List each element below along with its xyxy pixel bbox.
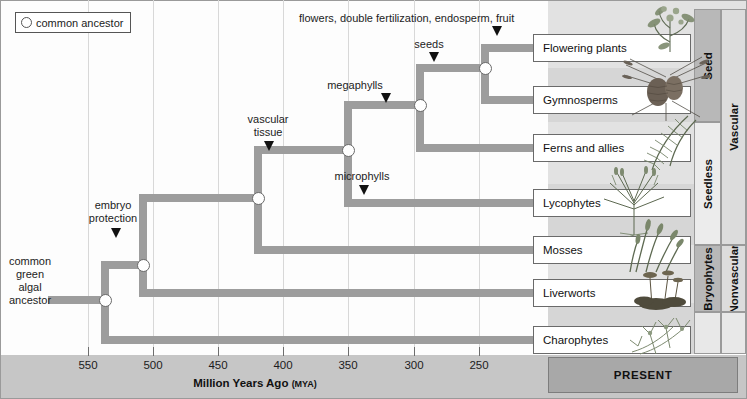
root-label-line-2: green [4, 268, 56, 281]
node-seed-plants[interactable] [414, 99, 427, 112]
axis-tick-label: 450 [198, 359, 238, 371]
taxon-charophytes[interactable]: Charophytes [533, 326, 691, 354]
legend-label: common ancestor [36, 17, 123, 29]
trait-label-line-1: flowers, double fertilization, endosperm… [299, 12, 519, 25]
axis-tick-500 [153, 347, 154, 356]
circle-node-icon [21, 17, 32, 28]
axis-tick-400 [283, 347, 284, 356]
branch-root-stem [48, 296, 106, 304]
group-band-seedless: Seedless [694, 122, 721, 245]
trait-seeds: seeds [400, 38, 458, 51]
group-band-nonvascular: Nonvascular [721, 245, 746, 312]
axis-tick-350 [348, 347, 349, 356]
present-label-box: PRESENT [548, 357, 738, 393]
trait-arrow-megaphylls [381, 93, 391, 103]
present-label: PRESENT [614, 369, 673, 381]
group-band-label: Bryophytes [702, 247, 714, 310]
branch-flowering-plants [481, 44, 541, 52]
trait-embryo-protection: embryo protection [68, 199, 158, 225]
root-label-line-1: common [4, 255, 56, 268]
trait-arrow-seeds [429, 52, 439, 62]
trait-label-line-2: protection [68, 212, 158, 225]
gridline-250 [479, 0, 480, 355]
branch-mosses [254, 246, 541, 254]
group-band-label: Seed [702, 52, 714, 80]
branch-charophytes [101, 336, 541, 344]
trait-megaphylls: megaphylls [311, 79, 399, 92]
trait-label-line-1: embryo [68, 199, 158, 212]
group-band-label: Seedless [702, 159, 714, 209]
node-angiosperm-split[interactable] [479, 62, 492, 75]
axis-tick-label: 550 [68, 359, 108, 371]
trait-microphylls: microphylls [318, 170, 406, 183]
axis-tick-300 [414, 347, 415, 356]
trait-label-line-1: vascular [228, 113, 308, 126]
gridline-300 [414, 0, 415, 355]
trait-arrow-flowers-fruit [492, 26, 502, 36]
gridline-500 [153, 0, 154, 355]
root-label-line-3: algal [4, 281, 56, 294]
axis-tick-label: 300 [394, 359, 434, 371]
axis-tick-450 [218, 347, 219, 356]
group-band-unlabeled-charophyte [694, 312, 721, 354]
branch-ferns [416, 144, 541, 152]
trait-label-line-1: microphylls [318, 170, 406, 183]
taxon-gymnosperms[interactable]: Gymnosperms [533, 86, 691, 114]
group-band-seed: Seed [694, 9, 721, 122]
trait-arrow-microphylls [359, 185, 369, 195]
node-common-green-algal-ancestor[interactable] [99, 294, 112, 307]
gridline-450 [218, 0, 219, 355]
axis-tick-label: 350 [328, 359, 368, 371]
node-euphyllophytes[interactable] [342, 144, 355, 157]
axis-tick-550 [88, 347, 89, 356]
group-band-vascular: Vascular [721, 9, 746, 245]
taxon-label: Mosses [543, 244, 583, 256]
group-band-unlabeled-outer [721, 312, 746, 354]
trait-arrow-embryo-protection [111, 228, 121, 238]
axis-tick-label: 400 [263, 359, 303, 371]
phylogenetic-tree-figure: common green algal ancestor embryo prote… [0, 0, 747, 399]
taxon-label: Charophytes [543, 334, 608, 346]
taxon-label: Gymnosperms [543, 94, 618, 106]
gridline-400 [283, 0, 284, 355]
axis-tick-label: 500 [133, 359, 173, 371]
taxon-flowering-plants[interactable]: Flowering plants [533, 34, 691, 62]
taxon-label: Flowering plants [543, 42, 627, 54]
axis-title: Million Years Ago (MYA) [0, 377, 510, 389]
taxon-lycophytes[interactable]: Lycophytes [533, 189, 691, 217]
branch-liverworts [139, 289, 541, 297]
taxon-label: Liverworts [543, 287, 595, 299]
root-label-line-4: ancestor [4, 294, 56, 307]
group-band-label: Vascular [728, 103, 740, 150]
trait-label-line-2: tissue [228, 126, 308, 139]
taxon-label: Lycophytes [543, 197, 601, 209]
trait-vascular-tissue: vascular tissue [228, 113, 308, 139]
taxon-label: Ferns and allies [543, 142, 624, 154]
axis-title-unit: (MYA) [292, 379, 317, 389]
taxon-liverworts[interactable]: Liverworts [533, 279, 691, 307]
group-band-bryophytes: Bryophytes [694, 245, 721, 312]
trait-flowers-fruit: flowers, double fertilization, endosperm… [299, 12, 519, 25]
branch-gymnosperms [481, 96, 541, 104]
node-embryophytes[interactable] [137, 259, 150, 272]
trait-label-line-1: seeds [400, 38, 458, 51]
legend-common-ancestor: common ancestor [15, 12, 131, 33]
trait-arrow-vascular-tissue [264, 141, 274, 151]
axis-tick-250 [479, 347, 480, 356]
axis-title-text: Million Years Ago [193, 377, 288, 389]
trait-label-line-1: megaphylls [311, 79, 399, 92]
taxon-ferns-and-allies[interactable]: Ferns and allies [533, 134, 691, 162]
root-label: common green algal ancestor [4, 255, 56, 307]
node-vascular-plants[interactable] [252, 192, 265, 205]
taxon-mosses[interactable]: Mosses [533, 236, 691, 264]
branch-lycophytes [344, 199, 541, 207]
axis-tick-label: 250 [459, 359, 499, 371]
group-band-label: Nonvascular [728, 245, 740, 312]
